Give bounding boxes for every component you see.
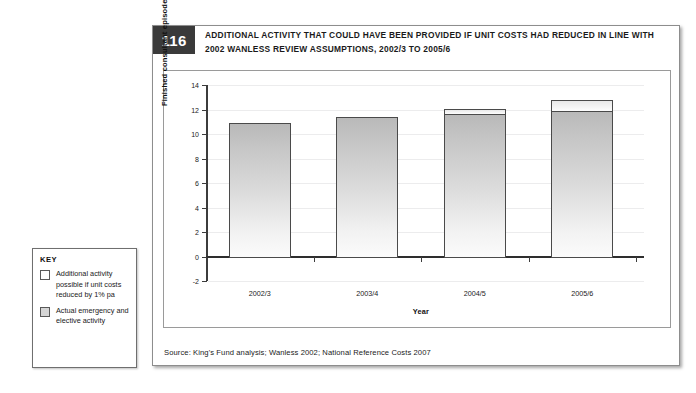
y-axis-tick-label: 6 bbox=[195, 180, 199, 187]
x-axis-tick bbox=[314, 257, 315, 262]
legend-items: Additional activity possible if unit cos… bbox=[40, 269, 129, 327]
legend-swatch bbox=[40, 307, 50, 317]
chart-legend-key: KEY Additional activity possible if unit… bbox=[32, 248, 137, 368]
x-axis-tick-label: 2002/3 bbox=[225, 289, 295, 298]
y-axis-tick-label: -2 bbox=[193, 278, 199, 285]
y-axis-tick-label: 0 bbox=[195, 253, 199, 260]
x-axis-tick-label: 2004/5 bbox=[440, 289, 510, 298]
legend-item-label: Actual emergency and elective activity bbox=[56, 306, 129, 327]
bar-group bbox=[551, 100, 613, 257]
legend-item: Additional activity possible if unit cos… bbox=[40, 269, 129, 301]
y-axis-tick-label: 2 bbox=[195, 229, 199, 236]
x-axis-title: Year bbox=[206, 307, 636, 316]
chart-axes: 14121086420-2 2002/32003/42004/52005/6 Y… bbox=[206, 85, 636, 281]
figure-title: ADDITIONAL ACTIVITY THAT COULD HAVE BEEN… bbox=[205, 29, 679, 57]
chart-plot-area: Finished consultant episodes (million) 1… bbox=[163, 70, 671, 328]
x-axis-tick bbox=[421, 257, 422, 262]
y-axis-tick-label: 12 bbox=[191, 106, 199, 113]
y-axis-tick-label: 10 bbox=[191, 131, 199, 138]
figure-header: 116 ADDITIONAL ACTIVITY THAT COULD HAVE … bbox=[153, 26, 679, 72]
y-axis-tick-label: 8 bbox=[195, 155, 199, 162]
legend-swatch bbox=[40, 270, 50, 280]
x-axis-tick bbox=[636, 257, 637, 262]
legend-item-label: Additional activity possible if unit cos… bbox=[56, 269, 129, 301]
bar-group bbox=[229, 123, 291, 257]
grid-line bbox=[208, 85, 644, 86]
x-axis-tick bbox=[206, 257, 207, 262]
y-axis-tick-label: 14 bbox=[191, 82, 199, 89]
y-axis-tick bbox=[202, 134, 207, 135]
y-axis-tick-label: 4 bbox=[195, 204, 199, 211]
grid-line bbox=[208, 281, 644, 282]
x-axis-tick bbox=[529, 257, 530, 262]
y-axis-tick bbox=[202, 208, 207, 209]
bar-segment-actual-activity bbox=[551, 111, 613, 258]
bar-segment-actual-activity bbox=[444, 114, 506, 257]
legend-item: Actual emergency and elective activity bbox=[40, 306, 129, 327]
bar-segment-actual-activity bbox=[336, 117, 398, 258]
figure-source: Source: King's Fund analysis; Wanless 20… bbox=[164, 348, 431, 357]
bar-group bbox=[336, 117, 398, 257]
x-axis-tick-label: 2005/6 bbox=[547, 289, 617, 298]
y-axis-tick bbox=[202, 159, 207, 160]
y-axis-tick bbox=[202, 183, 207, 184]
y-axis-tick bbox=[202, 232, 207, 233]
y-axis-title: Finished consultant episodes (million) bbox=[160, 0, 169, 117]
y-axis-tick bbox=[202, 110, 207, 111]
bar-segment-actual-activity bbox=[229, 123, 291, 258]
legend-title: KEY bbox=[40, 255, 129, 264]
y-axis-tick bbox=[202, 281, 207, 282]
figure-panel: 116 ADDITIONAL ACTIVITY THAT COULD HAVE … bbox=[152, 25, 680, 366]
y-axis-tick bbox=[202, 85, 207, 86]
x-axis-tick-label: 2003/4 bbox=[332, 289, 402, 298]
bar-group bbox=[444, 109, 506, 256]
